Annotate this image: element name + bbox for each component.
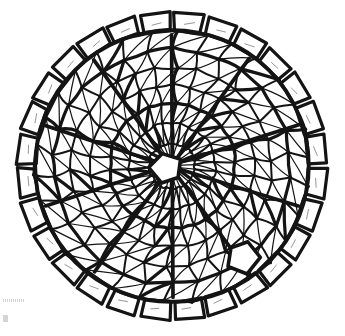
mesh-joint <box>191 155 194 158</box>
mesh-joint <box>186 103 190 107</box>
rim-tab-inner-mark <box>316 178 317 187</box>
mesh-joint <box>138 239 140 241</box>
mesh-joint <box>248 188 251 191</box>
mesh-joint <box>289 176 291 178</box>
mesh-joint <box>195 200 198 203</box>
mesh-joint <box>179 207 181 209</box>
mesh-joint <box>123 273 125 275</box>
mesh-strut <box>138 91 140 114</box>
mesh-joint <box>146 50 150 54</box>
mesh-joint <box>179 122 181 124</box>
mesh-joint <box>274 224 278 228</box>
mesh-joint <box>88 111 91 114</box>
mesh-joint <box>123 59 126 62</box>
mesh-joint <box>188 204 191 207</box>
mesh-joint <box>161 206 163 208</box>
mesh-joint <box>153 179 157 183</box>
mesh-joint <box>153 66 155 68</box>
mesh-joint <box>126 168 129 171</box>
mesh-joint <box>187 245 189 247</box>
mesh-joint <box>136 113 139 116</box>
mesh-strut <box>154 227 155 246</box>
mesh-strut <box>178 68 196 69</box>
mesh-joint <box>53 175 56 178</box>
mesh-joint <box>170 188 172 190</box>
mesh-joint <box>214 169 217 172</box>
mesh-strut <box>254 158 255 175</box>
mesh-joint <box>285 129 288 132</box>
mesh-joint <box>247 101 250 104</box>
mesh-joint <box>153 244 156 247</box>
mesh-joint <box>172 281 174 283</box>
mesh-joint <box>132 144 136 148</box>
mesh-joint <box>233 148 236 151</box>
mesh-joint <box>207 186 210 189</box>
mesh-joint <box>165 186 167 188</box>
mesh-joint <box>92 140 94 142</box>
mesh-joint <box>89 155 91 157</box>
mesh-strut <box>205 219 206 240</box>
mesh-joint <box>179 186 182 189</box>
mesh-joint <box>217 77 220 80</box>
mesh-strut <box>271 161 272 180</box>
mesh-strut <box>284 201 286 241</box>
mesh-joint <box>93 226 95 228</box>
mesh-strut <box>234 175 254 176</box>
mesh-strut <box>90 156 111 157</box>
mesh-joint <box>193 224 195 226</box>
mesh-strut <box>168 227 181 228</box>
mesh-joint <box>115 80 119 84</box>
mesh-joint <box>121 230 124 233</box>
mesh-strut <box>111 143 112 157</box>
mesh-joint <box>218 97 222 101</box>
mesh-joint <box>242 205 246 209</box>
mesh-joint <box>171 46 173 48</box>
mesh-strut <box>102 205 122 206</box>
scan-artifact-dotted-row <box>3 299 25 302</box>
mesh-joint <box>134 186 136 188</box>
mesh-joint <box>261 87 263 89</box>
mesh-joint <box>176 143 178 145</box>
mesh-joint <box>160 103 162 105</box>
mesh-joint <box>118 130 120 132</box>
mesh-joint <box>206 257 208 259</box>
mesh-joint <box>211 176 215 180</box>
mesh-joint <box>270 179 274 183</box>
mesh-joint <box>130 178 133 181</box>
mesh-joint <box>159 185 162 188</box>
mesh-joint <box>101 204 104 207</box>
mesh-joint <box>150 152 153 155</box>
mesh-joint <box>60 200 62 202</box>
mesh-joint <box>228 136 230 138</box>
mesh-joint <box>249 141 251 143</box>
mesh-joint <box>167 227 169 229</box>
mesh-joint <box>142 260 146 264</box>
figure-page: Geodesic dome lattice, plan view Scanned… <box>0 0 345 336</box>
mesh-joint <box>218 228 222 232</box>
mesh-joint <box>139 136 141 138</box>
mesh-joint <box>232 218 234 220</box>
mesh-joint <box>194 67 198 71</box>
mesh-joint <box>154 149 158 153</box>
mesh-joint <box>92 190 94 192</box>
mesh-joint <box>229 187 232 190</box>
mesh-joint <box>215 209 218 212</box>
mesh-joint <box>177 67 179 69</box>
mesh-joint <box>89 175 92 178</box>
mesh-joint <box>99 126 101 128</box>
mesh-joint <box>283 200 286 203</box>
mesh-joint <box>134 72 138 76</box>
mesh-joint <box>175 187 177 189</box>
mesh-joint <box>129 152 132 155</box>
mesh-joint <box>159 145 162 148</box>
mesh-joint <box>238 67 241 70</box>
mesh-joint <box>144 282 147 285</box>
mesh-joint <box>99 260 101 262</box>
mesh-joint <box>224 250 227 253</box>
mesh-joint <box>222 200 224 202</box>
mesh-joint <box>125 253 128 256</box>
mesh-strut <box>234 162 235 175</box>
mesh-joint <box>188 180 190 182</box>
mesh-joint <box>122 98 125 101</box>
scan-artifact-gray-mark <box>3 315 8 322</box>
